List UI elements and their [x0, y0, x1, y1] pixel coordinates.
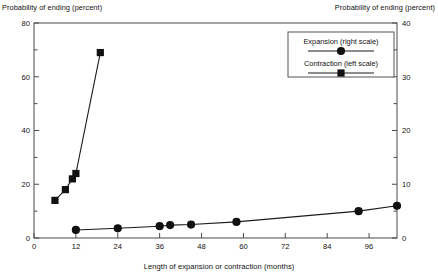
x-axis-caption: Length of expansion or contraction (mont…: [144, 262, 295, 271]
data-point-marker: [156, 222, 164, 230]
right-tick-label: 40: [402, 19, 410, 28]
left-axis-ticks: 020406080: [22, 19, 39, 243]
chart-plot-area: 020406080 010203040 01224364860728496 Ex…: [0, 0, 438, 274]
chart-legend: Expansion (right scale)Contraction (left…: [288, 32, 394, 77]
legend-marker: [337, 69, 344, 76]
data-point-marker: [72, 170, 79, 177]
right-tick-label: 0: [402, 234, 406, 243]
chart-figure: Probability of ending (percent) Probabil…: [0, 0, 438, 274]
series-line-contraction: [55, 53, 100, 201]
data-point-marker: [114, 224, 122, 232]
data-point-marker: [232, 218, 240, 226]
legend-label: Expansion (right scale): [303, 37, 378, 46]
x-tick-label: 60: [239, 242, 247, 251]
data-point-marker: [355, 207, 363, 215]
data-point-marker: [97, 49, 104, 56]
x-tick-label: 96: [365, 242, 373, 251]
x-tick-label: 48: [197, 242, 205, 251]
left-tick-label: 80: [22, 19, 30, 28]
right-axis-ticks: 010203040: [392, 19, 410, 243]
left-tick-label: 40: [22, 126, 30, 135]
left-tick-label: 20: [22, 180, 30, 189]
left-tick-label: 60: [22, 73, 30, 82]
data-point-marker: [393, 202, 401, 210]
x-tick-label: 84: [323, 242, 331, 251]
right-tick-label: 10: [402, 180, 410, 189]
x-tick-label: 24: [114, 242, 122, 251]
x-tick-label: 12: [72, 242, 80, 251]
right-tick-label: 30: [402, 73, 410, 82]
data-point-marker: [187, 220, 195, 228]
data-point-marker: [62, 186, 69, 193]
data-point-marker: [72, 226, 80, 234]
x-tick-label: 0: [32, 242, 36, 251]
x-tick-label: 72: [281, 242, 289, 251]
legend-label: Contraction (left scale): [304, 59, 378, 68]
legend-marker: [337, 47, 345, 55]
x-tick-label: 36: [155, 242, 163, 251]
x-axis-ticks: 01224364860728496: [32, 233, 373, 251]
data-point-marker: [51, 197, 58, 204]
right-tick-label: 20: [402, 126, 410, 135]
left-tick-label: 0: [26, 234, 30, 243]
data-point-marker: [166, 221, 174, 229]
